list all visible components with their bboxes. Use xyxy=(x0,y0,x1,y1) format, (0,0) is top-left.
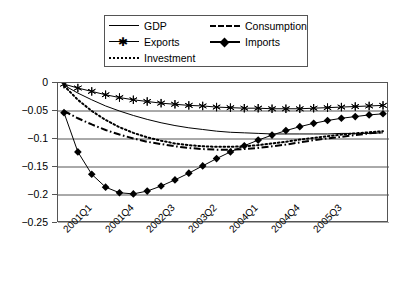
chart-root: GDP ✱ Exports Investment Consumpti xyxy=(0,0,402,283)
x-tick-label: 2004Q4 xyxy=(269,202,302,235)
x-tick-label: 2001Q4 xyxy=(103,202,136,235)
x-tick-label: 2001Q1 xyxy=(61,202,94,235)
x-tick-label: 2004Q1 xyxy=(227,202,260,235)
x-tick-label: 2002Q3 xyxy=(144,202,177,235)
x-tick-label: 2003Q2 xyxy=(186,202,219,235)
x-axis: 2001Q12001Q42002Q32003Q22004Q12004Q42005… xyxy=(0,0,402,283)
x-tick-label: 2005Q3 xyxy=(311,202,344,235)
